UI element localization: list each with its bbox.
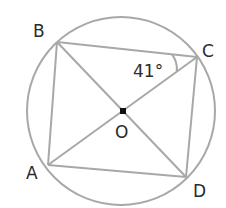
label-a: A — [26, 163, 38, 183]
segment-cd — [186, 57, 197, 177]
segment-ab — [48, 42, 57, 165]
label-c: C — [202, 41, 214, 61]
label-b: B — [33, 21, 45, 41]
label-d: D — [193, 181, 206, 201]
segment-da — [48, 165, 186, 177]
segment-bc — [57, 42, 197, 57]
label-o: O — [115, 122, 128, 142]
center-dot — [120, 108, 126, 114]
angle-label: 41° — [133, 61, 163, 81]
angle-arc-c — [172, 54, 177, 71]
geometry-diagram: B C A D O 41° — [0, 0, 226, 208]
